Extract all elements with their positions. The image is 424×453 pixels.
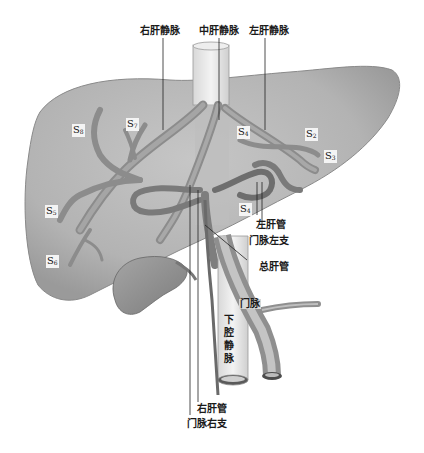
label-right-hepatic-vein: 右肝静脉 [140, 26, 180, 36]
segment-s5: S5 [45, 205, 58, 218]
label-common-hepatic-duct: 总肝管 [259, 262, 289, 272]
segment-s2: S2 [305, 128, 318, 141]
segment-s4b: S4 [239, 203, 252, 216]
liver-illustration [0, 0, 424, 453]
segment-s8: S8 [72, 124, 85, 137]
label-left-portal-branch: 门脉左支 [249, 236, 289, 246]
gallbladder [113, 256, 187, 314]
segment-s4: S4 [237, 126, 250, 139]
segment-s6: S6 [46, 255, 59, 268]
segment-s3: S3 [324, 150, 337, 163]
label-portal-vein: 门脉 [239, 299, 261, 309]
label-left-hepatic-vein: 左肝静脉 [249, 26, 289, 36]
label-left-hepatic-duct: 左肝管 [256, 220, 286, 230]
label-middle-hepatic-vein: 中肝静脉 [199, 26, 239, 36]
label-inferior-vena-cava: 下 腔 静 脉 [223, 313, 234, 365]
segment-s7: S7 [126, 118, 139, 131]
liver-diagram: 右肝静脉 中肝静脉 左肝静脉 S8 S7 S4 S2 S3 S5 S6 S4 左… [0, 0, 424, 453]
label-right-hepatic-duct: 右肝管 [197, 404, 227, 414]
label-right-portal-branch: 门脉右支 [187, 419, 227, 429]
